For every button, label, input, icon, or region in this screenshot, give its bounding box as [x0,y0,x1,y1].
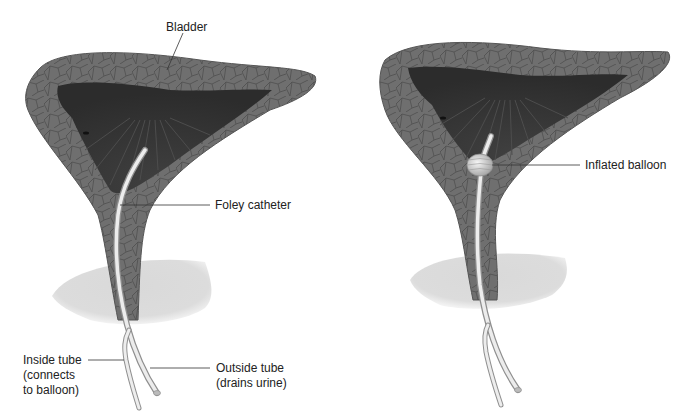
outside-tube-line-1: Outside tube [216,361,287,376]
label-inflated-balloon: Inflated balloon [585,158,666,173]
inside-tube-line-2: (connects [23,368,82,383]
inside-tube-line-3: to balloon) [23,383,82,398]
inflated-balloon [467,154,493,176]
label-foley-catheter: Foley catheter [215,198,291,213]
foley-catheter-diagram [0,0,689,420]
panel-inflated [380,42,670,405]
label-inside-tube: Inside tube (connects to balloon) [23,353,82,398]
label-outside-tube: Outside tube (drains urine) [216,361,287,391]
panel-deflated [26,33,316,408]
ureter-opening-left [83,132,89,135]
outside-tube-line-2: (drains urine) [216,376,287,391]
label-bladder: Bladder [166,20,207,35]
inside-tube-line-1: Inside tube [23,353,82,368]
ureter-opening-right [440,117,446,120]
